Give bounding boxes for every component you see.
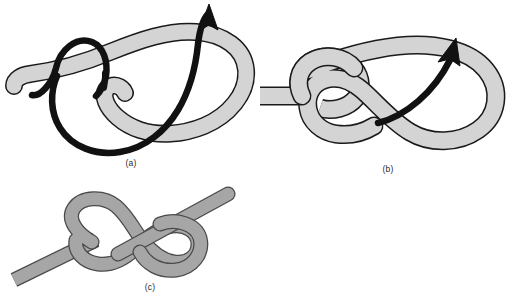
panel-b-band [260, 45, 496, 141]
panel-b-diagram [258, 8, 518, 183]
panel-b: (b) [258, 8, 518, 183]
panel-a: (a) [0, 0, 262, 175]
panel-a-diagram [0, 0, 262, 175]
panel-a-caption: (a) [0, 158, 262, 168]
panel-c-caption: (c) [0, 282, 300, 292]
panel-b-caption: (b) [258, 164, 518, 174]
panel-c-band [14, 194, 228, 280]
panel-c: (c) [0, 178, 300, 305]
knot-figure: (a) (b) [0, 0, 518, 305]
rope-stub-a [104, 73, 105, 88]
